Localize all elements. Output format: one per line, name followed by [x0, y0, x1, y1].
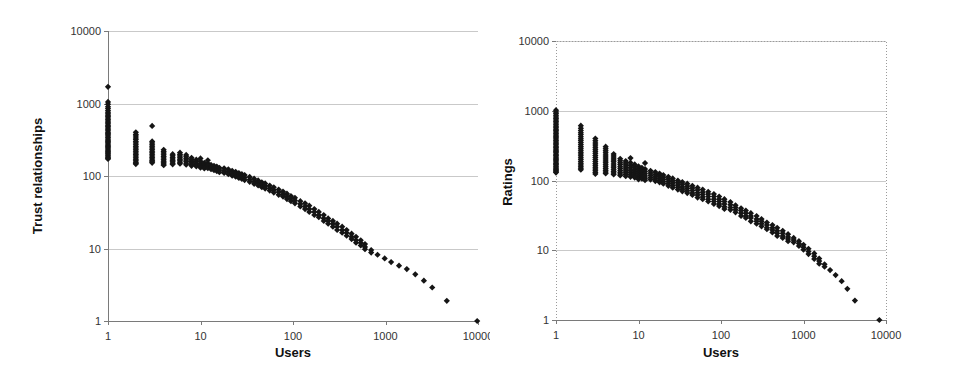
x-tick-label: 100: [712, 329, 730, 341]
chart-panel-trust-relationships: 110100100010000110100100010000UsersTrust…: [0, 0, 490, 378]
y-tick-labels: 110100100010000: [70, 25, 101, 327]
y-tick-label: 100: [83, 170, 101, 182]
data-points: [105, 84, 480, 324]
y-tick-label: 10000: [518, 35, 549, 47]
y-tick-label: 1: [543, 314, 549, 326]
x-tick-label: 1000: [373, 330, 397, 342]
x-tick-label: 1: [105, 330, 111, 342]
y-tick-label: 10: [537, 244, 549, 256]
x-axis-title: Users: [275, 345, 311, 360]
figure-container: 110100100010000110100100010000UsersTrust…: [0, 0, 979, 378]
y-axis-title: Trust relationships: [30, 118, 45, 234]
x-tick-label: 100: [284, 330, 302, 342]
x-tick-label: 1000: [791, 329, 815, 341]
x-tick-label: 10000: [871, 329, 902, 341]
x-axis-title: Users: [703, 345, 739, 360]
x-tick-labels: 110100100010000: [105, 330, 490, 342]
x-tick-labels: 110100100010000: [553, 329, 901, 341]
x-tick-label: 10: [194, 330, 206, 342]
y-tick-label: 10000: [70, 25, 101, 37]
x-tick-label: 10000: [463, 330, 490, 342]
y-tick-label: 10: [89, 243, 101, 255]
y-gridlines: [108, 32, 478, 250]
y-tick-label: 1: [95, 315, 101, 327]
x-tick-label: 1: [553, 329, 559, 341]
axes: [552, 42, 887, 325]
scatter-chart-trust-relationships: 110100100010000110100100010000UsersTrust…: [0, 0, 490, 378]
scatter-chart-ratings: 110100100010000110100100010000UsersRatin…: [490, 0, 979, 378]
y-tick-label: 1000: [525, 105, 549, 117]
y-tick-labels: 110100100010000: [518, 35, 549, 326]
y-tick-label: 100: [531, 175, 549, 187]
data-points: [553, 107, 883, 323]
x-tick-label: 10: [632, 329, 644, 341]
y-tick-label: 1000: [77, 98, 101, 110]
y-axis-title: Ratings: [500, 158, 515, 206]
chart-panel-ratings: 110100100010000110100100010000UsersRatin…: [490, 0, 979, 378]
